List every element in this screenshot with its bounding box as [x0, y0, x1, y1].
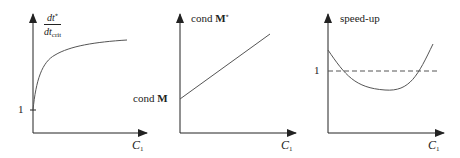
y-label-superscript: ∘ — [226, 12, 229, 20]
panel-3-y-label: speed-up — [340, 12, 380, 24]
tick-label-text: cond — [133, 92, 157, 104]
panel-3-x-label: C1 — [428, 138, 440, 153]
panel-3-tick-label: 1 — [314, 64, 320, 76]
y-label-text: cond — [191, 12, 215, 24]
x-label-main: C — [428, 138, 436, 152]
panel-1-curve — [33, 40, 127, 110]
tick-label-matrix: M — [157, 92, 167, 104]
x-label-subscript: 1 — [289, 145, 293, 153]
y-label-denominator-subscript: crit — [52, 31, 61, 39]
panel-1-tick-label: 1 — [18, 103, 24, 115]
panel-1-y-label: dt∘ dtcrit — [44, 10, 61, 41]
panel-2-x-label: C1 — [281, 138, 293, 153]
panel-1-x-label: C1 — [132, 138, 144, 153]
panel-2-line — [180, 34, 270, 99]
x-label-main: C — [281, 138, 289, 152]
y-label-numerator-superscript: ∘ — [55, 11, 58, 19]
y-label-denominator: dt — [44, 26, 52, 37]
y-label-matrix: M — [215, 12, 225, 24]
panel-3 — [328, 14, 444, 133]
fraction-bar — [44, 24, 61, 25]
panel-2 — [180, 14, 296, 133]
panel-2-y-label: cond M∘ — [191, 12, 229, 24]
panel-2-tick-label: cond M — [133, 92, 168, 104]
x-label-subscript: 1 — [140, 145, 144, 153]
x-label-subscript: 1 — [436, 145, 440, 153]
panel-3-curve — [328, 44, 433, 90]
diagram-canvas — [0, 0, 460, 158]
x-label-main: C — [132, 138, 140, 152]
y-label-numerator: dt — [47, 12, 55, 23]
